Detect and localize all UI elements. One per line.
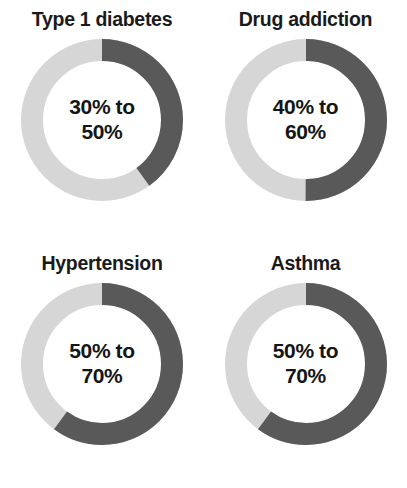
donut-chart-title: Drug addiction: [217, 8, 395, 31]
donut-chart-grid: Type 1 diabetes 30% to 50% Drug addictio…: [0, 0, 407, 488]
donut-chart-panel: Drug addiction 40% to 60%: [204, 0, 407, 244]
donut-chart-graphic: 50% to 70%: [17, 279, 187, 449]
donut-chart-panel: Hypertension 50% to 70%: [0, 244, 204, 488]
donut-svg: [221, 279, 391, 449]
donut-chart-title: Asthma: [217, 252, 395, 275]
donut-svg: [221, 35, 391, 205]
donut-chart-graphic: 30% to 50%: [17, 35, 187, 205]
donut-svg: [17, 35, 187, 205]
donut-chart-title: Hypertension: [13, 252, 191, 275]
donut-chart-graphic: 40% to 60%: [221, 35, 391, 205]
donut-chart-panel: Type 1 diabetes 30% to 50%: [0, 0, 204, 244]
donut-chart-graphic: 50% to 70%: [221, 279, 391, 449]
donut-chart-title: Type 1 diabetes: [13, 8, 191, 31]
donut-svg: [17, 279, 187, 449]
donut-chart-panel: Asthma 50% to 70%: [204, 244, 407, 488]
